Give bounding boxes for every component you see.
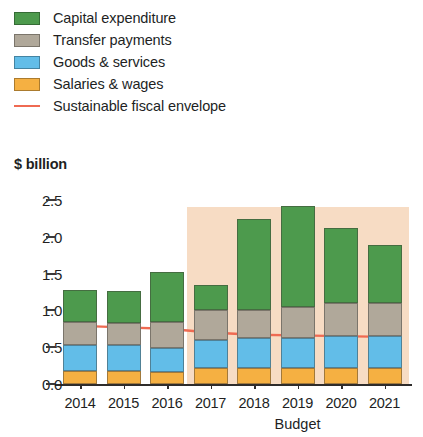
bar-segment-transfer-payments-2017: [194, 310, 228, 340]
bar-segment-capital-expenditure-2019: [281, 206, 315, 307]
bar-segment-goods-services-2019: [281, 338, 315, 368]
x-axis-tick-label-2021: 2021: [369, 395, 400, 411]
x-axis-tick-label-2020: 2020: [325, 395, 356, 411]
bar-segment-transfer-payments-2021: [368, 303, 402, 336]
bar-segment-goods-services-2017: [194, 340, 228, 368]
y-axis-tick-mark: [46, 346, 55, 348]
bar-segment-capital-expenditure-2014: [63, 290, 97, 322]
bar-segment-salaries-wages-2015: [107, 371, 141, 384]
x-axis-tick-label-2019: 2019: [282, 395, 313, 411]
bar-2019[interactable]: [281, 206, 315, 384]
y-axis-tick-label: 2.0: [24, 228, 62, 245]
bar-segment-goods-services-2020: [324, 336, 358, 368]
plot-area: 0.00.51.01.52.02.52014201520162017201820…: [0, 0, 423, 437]
y-axis-tick-label: 2.5: [24, 192, 62, 209]
bar-segment-salaries-wages-2014: [63, 371, 97, 384]
x-axis-title: Budget: [275, 416, 321, 432]
x-axis-tick-mark-2018: [254, 384, 256, 389]
bar-segment-transfer-payments-2020: [324, 303, 358, 336]
bar-segment-goods-services-2015: [107, 345, 141, 371]
y-axis-tick-label: 1.5: [24, 265, 62, 282]
chart-figure: Capital expenditure Transfer payments Go…: [0, 0, 423, 437]
bar-2021[interactable]: [368, 245, 402, 384]
x-axis-tick-mark-2019: [298, 384, 300, 389]
bar-segment-salaries-wages-2017: [194, 368, 228, 384]
bar-segment-goods-services-2018: [237, 338, 271, 368]
y-axis-tick-mark: [46, 273, 55, 275]
bar-segment-salaries-wages-2018: [237, 368, 271, 384]
y-axis-tick-mark: [46, 309, 55, 311]
bar-segment-goods-services-2014: [63, 345, 97, 371]
bar-segment-salaries-wages-2019: [281, 368, 315, 384]
bar-2020[interactable]: [324, 228, 358, 384]
x-axis-tick-label-2016: 2016: [151, 395, 182, 411]
bar-segment-capital-expenditure-2016: [150, 272, 184, 322]
x-axis-tick-label-2018: 2018: [238, 395, 269, 411]
bar-2016[interactable]: [150, 272, 184, 384]
bar-2017[interactable]: [194, 285, 228, 384]
x-axis-line: [55, 384, 412, 386]
x-axis-tick-label-2015: 2015: [108, 395, 139, 411]
x-axis-tick-mark-2017: [211, 384, 213, 389]
bar-segment-transfer-payments-2016: [150, 322, 184, 348]
bar-2014[interactable]: [63, 290, 97, 384]
bar-segment-transfer-payments-2014: [63, 322, 97, 345]
x-axis-tick-mark-2015: [124, 384, 126, 389]
y-axis-tick-mark: [46, 236, 55, 238]
bar-segment-transfer-payments-2019: [281, 307, 315, 338]
x-axis-tick-mark-2020: [341, 384, 343, 389]
bar-segment-salaries-wages-2016: [150, 372, 184, 384]
bar-segment-transfer-payments-2015: [107, 323, 141, 345]
y-axis-tick-mark: [46, 199, 55, 201]
bar-segment-capital-expenditure-2021: [368, 245, 402, 303]
y-axis-tick-mark: [46, 383, 55, 385]
bar-segment-transfer-payments-2018: [237, 310, 271, 338]
bar-segment-salaries-wages-2021: [368, 368, 402, 384]
x-axis-tick-label-2014: 2014: [64, 395, 95, 411]
x-axis-tick-mark-2021: [385, 384, 387, 389]
bar-segment-capital-expenditure-2020: [324, 228, 358, 303]
bar-2015[interactable]: [107, 291, 141, 384]
y-axis-tick-label: 0.5: [24, 339, 62, 356]
x-axis-tick-mark-2016: [167, 384, 169, 389]
x-axis-tick-label-2017: 2017: [195, 395, 226, 411]
bar-segment-capital-expenditure-2017: [194, 285, 228, 310]
bar-2018[interactable]: [237, 219, 271, 384]
bar-segment-goods-services-2016: [150, 348, 184, 372]
y-axis-tick-label: 1.0: [24, 302, 62, 319]
bar-segment-capital-expenditure-2015: [107, 291, 141, 323]
bar-segment-salaries-wages-2020: [324, 368, 358, 384]
bar-segment-capital-expenditure-2018: [237, 219, 271, 310]
x-axis-tick-mark-2014: [80, 384, 82, 389]
y-axis-tick-label: 0.0: [24, 376, 62, 393]
bar-segment-goods-services-2021: [368, 336, 402, 368]
